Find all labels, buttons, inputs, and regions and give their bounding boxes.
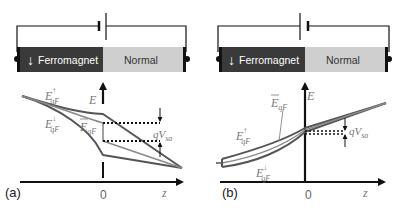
energy-label-b: E <box>306 89 315 103</box>
mean-label-a: EqF <box>79 120 96 136</box>
spin-down-label-b: E↓qF <box>255 163 270 183</box>
circuit-wire-a <box>17 13 186 52</box>
normal-label-a: Normal <box>124 54 158 66</box>
energy-label-a: E <box>88 93 97 107</box>
panel-label-b: (b) <box>222 185 238 200</box>
origin-label-a: 0 <box>100 188 107 202</box>
diagram-canvas: ↓ Ferromagnet Normal E (a) 0 z E↑qF E↓qF… <box>0 0 406 213</box>
spin-arrow-icon: ↓ <box>27 52 34 68</box>
spin-down-label-a: E↓qF <box>44 114 59 134</box>
panel-a: ↓ Ferromagnet Normal E (a) 0 z E↑qF E↓qF… <box>5 13 190 202</box>
spin-up-label-b: E↑qF <box>235 126 250 146</box>
origin-label-b: 0 <box>305 188 312 202</box>
mean-label-b: EqF <box>270 96 287 112</box>
voltage-label-b: qVsa <box>349 125 368 140</box>
z-label-b: z <box>362 186 368 200</box>
ferromagnet-label-a: Ferromagnet <box>38 54 98 66</box>
panel-label-a: (a) <box>5 185 21 200</box>
panel-b: ↓ Ferromagnet Normal E (b) 0 z E↑qF E↓qF… <box>216 13 392 202</box>
z-label-a: z <box>161 186 167 200</box>
spin-arrow-icon: ↓ <box>228 52 235 68</box>
ferromagnet-label-b: Ferromagnet <box>239 54 299 66</box>
circuit-wire-b <box>218 13 389 52</box>
normal-label-b: Normal <box>326 54 360 66</box>
